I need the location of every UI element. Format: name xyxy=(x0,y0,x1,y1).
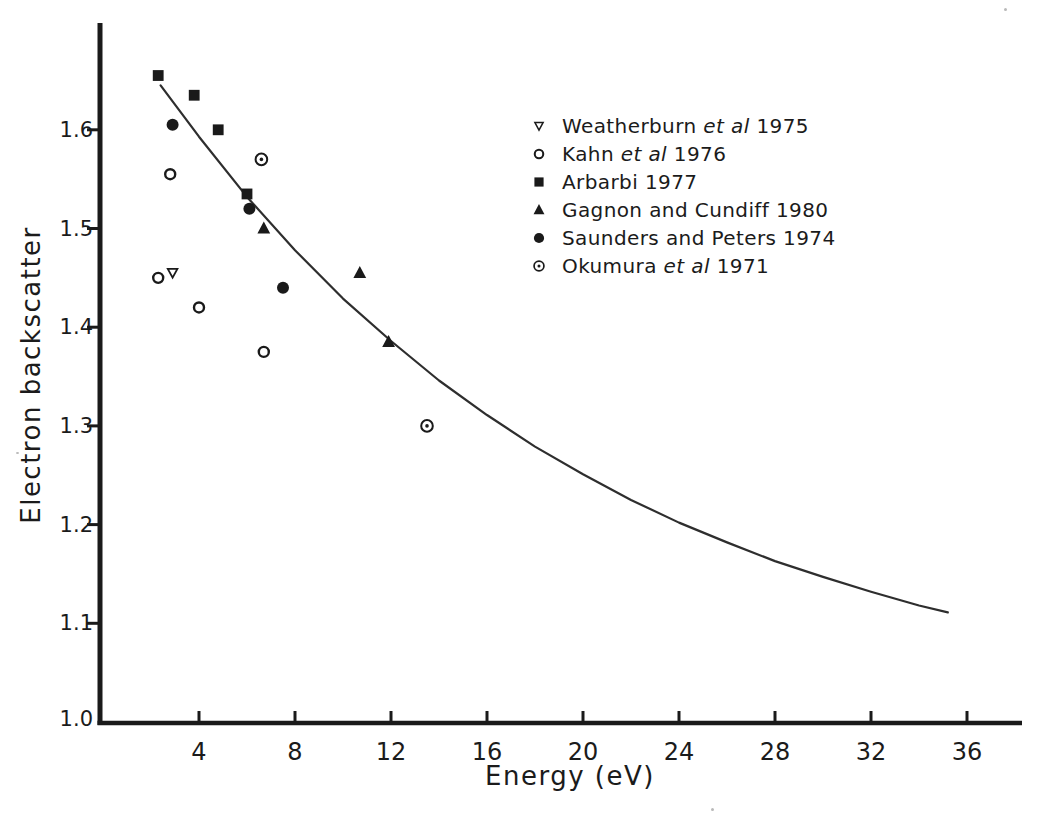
data-point-filled-square xyxy=(189,90,200,101)
figure: 48121620242832361.01.11.21.31.41.51.6Wea… xyxy=(0,0,1043,816)
x-tick-label: 8 xyxy=(287,738,302,766)
x-tick-label: 36 xyxy=(952,738,983,766)
legend-label: Arbarbi 1977 xyxy=(562,170,697,194)
x-tick-label: 24 xyxy=(664,738,695,766)
data-point-filled-triangle-up xyxy=(382,335,395,347)
legend-item: Arbarbi 1977 xyxy=(534,170,697,194)
legend-label: Weatherburn et al 1975 xyxy=(562,114,809,138)
legend-marker-filled-circle-icon xyxy=(534,233,544,243)
legend-marker-open-triangle-down-icon xyxy=(535,123,543,130)
data-point-open-circle xyxy=(165,169,175,179)
legend-label: Okumura et al 1971 xyxy=(562,254,769,278)
legend-item: Gagnon and Cundiff 1980 xyxy=(534,198,829,222)
legend-label: Gagnon and Cundiff 1980 xyxy=(562,198,829,222)
data-point-open-circle xyxy=(259,347,269,357)
data-point-open-circle xyxy=(153,273,163,283)
legend: Weatherburn et al 1975Kahn et al 1976Arb… xyxy=(534,114,836,278)
fit-curve xyxy=(161,85,948,612)
data-point-filled-circle xyxy=(277,282,289,294)
legend-item: Okumura et al 1971 xyxy=(534,254,769,278)
legend-item: Kahn et al 1976 xyxy=(535,142,727,166)
y-tick-label: 1.1 xyxy=(60,611,93,635)
data-point-open-triangle-down xyxy=(168,269,178,278)
y-tick-label: 1.6 xyxy=(60,118,93,142)
legend-item: Saunders and Peters 1974 xyxy=(534,226,836,250)
y-tick-label: 1.4 xyxy=(60,315,93,339)
y-tick-label: 1.5 xyxy=(60,217,93,241)
scan-speck xyxy=(1004,8,1007,11)
scan-speck xyxy=(711,808,714,811)
data-point-filled-square xyxy=(153,70,164,81)
legend-label: Saunders and Peters 1974 xyxy=(562,226,836,250)
legend-marker-open-circle-icon xyxy=(535,150,544,159)
legend-marker-filled-triangle-up-icon xyxy=(534,204,545,214)
legend-item: Weatherburn et al 1975 xyxy=(535,114,809,138)
y-axis-title: Electron backscatter xyxy=(16,226,46,524)
x-axis-title: Energy (eV) xyxy=(485,761,655,791)
data-point-filled-square xyxy=(242,189,253,200)
x-tick-label: 28 xyxy=(760,738,791,766)
x-tick-label: 32 xyxy=(856,738,887,766)
legend-marker-circle-dot-icon xyxy=(534,261,544,271)
x-tick-label: 12 xyxy=(376,738,407,766)
scan-speck xyxy=(16,452,19,454)
data-point-open-circle xyxy=(194,302,204,312)
data-point-filled-circle xyxy=(243,203,255,215)
y-tick-label: 1.2 xyxy=(60,513,93,537)
series-gagnon-and-cundiff-1980 xyxy=(257,222,395,348)
x-tick-label: 4 xyxy=(191,738,206,766)
legend-label: Kahn et al 1976 xyxy=(562,142,726,166)
data-point-filled-triangle-up xyxy=(353,266,366,278)
series-arbarbi-1977 xyxy=(153,70,253,199)
data-point-filled-triangle-up xyxy=(257,222,270,234)
series-saunders-and-peters-1974 xyxy=(167,119,289,294)
series-weatherburn-et-al-1975 xyxy=(168,269,178,278)
data-point-circle-dot xyxy=(256,154,268,166)
y-tick-label: 1.3 xyxy=(60,414,93,438)
legend-marker-filled-square-icon xyxy=(534,177,543,186)
data-point-filled-square xyxy=(213,124,224,135)
data-point-filled-circle xyxy=(167,119,179,131)
y-tick-label: 1.0 xyxy=(60,707,93,731)
data-point-circle-dot xyxy=(421,420,433,432)
chart-canvas: 48121620242832361.01.11.21.31.41.51.6Wea… xyxy=(0,0,1043,816)
